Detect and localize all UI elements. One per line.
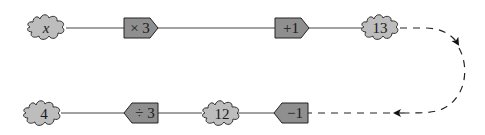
node-label: 12 xyxy=(215,106,230,122)
function-machine-diagram: x × 3 +1 13 4 ÷ 3 12 −1 xyxy=(0,0,485,135)
operation-box-minus-1: −1 xyxy=(274,103,308,123)
node-label: 13 xyxy=(373,20,388,36)
node-label: +1 xyxy=(283,20,299,36)
node-label: × 3 xyxy=(130,20,150,36)
dashed-loop-connector xyxy=(400,28,458,44)
node-label: −1 xyxy=(287,105,303,121)
operation-box-divide-3: ÷ 3 xyxy=(124,103,158,123)
output-cloud-13: 13 xyxy=(362,15,398,40)
dashed-loop-connector xyxy=(405,48,465,113)
output-cloud-4: 4 xyxy=(24,101,60,126)
operation-box-times-3: × 3 xyxy=(124,18,158,38)
node-label: x xyxy=(42,20,50,36)
operation-box-plus-1: +1 xyxy=(275,18,309,38)
input-cloud-x: x xyxy=(28,15,64,40)
input-cloud-12: 12 xyxy=(203,101,239,126)
node-label: ÷ 3 xyxy=(135,105,154,121)
node-label: 4 xyxy=(40,106,48,122)
